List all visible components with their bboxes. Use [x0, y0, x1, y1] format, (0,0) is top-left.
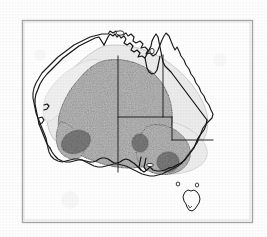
island-kangaroo — [147, 163, 154, 166]
island-king — [176, 182, 180, 186]
australia-distribution-map — [0, 0, 267, 237]
island-flinders — [195, 183, 198, 187]
figure-container — [0, 0, 267, 237]
island-groote-eylandt — [150, 48, 154, 53]
island-melville — [116, 31, 124, 35]
